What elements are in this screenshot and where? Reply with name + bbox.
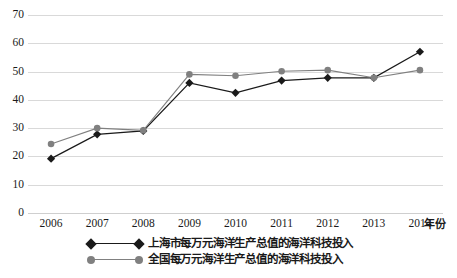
line-chart: 010203040506070 200620072008200920102011… xyxy=(0,0,457,278)
diamond-marker-icon xyxy=(324,74,332,82)
circle-marker-icon xyxy=(87,256,95,264)
series-layer xyxy=(28,15,443,213)
circle-marker-icon xyxy=(135,256,143,264)
y-axis-tick-label: 0 xyxy=(0,207,24,219)
series-line xyxy=(51,52,420,159)
x-axis-tick-label: 2009 xyxy=(178,218,201,230)
x-axis-tick-label: 2013 xyxy=(362,218,385,230)
legend-item-national[interactable]: 全国每万元海洋生产总值的海洋科技投入 xyxy=(86,252,386,268)
legend-item-shanghai[interactable]: 上海市每万元海洋生产总值的海洋科技投入 xyxy=(86,236,386,252)
x-axis-tick-label: 2006 xyxy=(40,218,63,230)
legend-label-shanghai: 上海市每万元海洋生产总值的海洋科技投入 xyxy=(144,238,353,250)
circle-marker-icon xyxy=(278,68,285,75)
x-axis-tick-label: 2010 xyxy=(224,218,247,230)
circle-marker-icon xyxy=(371,74,378,81)
circle-marker-icon xyxy=(94,125,101,132)
legend-key-shanghai xyxy=(86,237,144,251)
x-axis-tick-label: 2008 xyxy=(132,218,155,230)
gridline xyxy=(28,213,443,214)
legend-label-national: 全国每万元海洋生产总值的海洋科技投入 xyxy=(144,254,342,266)
plot-area xyxy=(28,15,443,213)
circle-marker-icon xyxy=(324,67,331,74)
series-line xyxy=(51,70,420,144)
x-axis-labels: 200620072008200920102011201220132014 xyxy=(28,218,443,234)
y-axis-tick-label: 30 xyxy=(0,122,24,134)
y-axis-tick-label: 20 xyxy=(0,151,24,163)
diamond-marker-icon xyxy=(416,48,424,56)
y-axis-tick-label: 40 xyxy=(0,94,24,106)
x-axis-tick-label: 2007 xyxy=(86,218,109,230)
legend-line-national xyxy=(90,259,140,260)
y-axis-tick-label: 60 xyxy=(0,38,24,50)
x-axis-title: 年份 xyxy=(424,219,446,230)
circle-marker-icon xyxy=(186,71,193,78)
diamond-marker-icon xyxy=(133,238,144,249)
diamond-marker-icon xyxy=(93,130,101,138)
diamond-marker-icon xyxy=(278,77,286,85)
legend-key-national xyxy=(86,253,144,267)
diamond-marker-icon xyxy=(47,155,55,163)
y-axis-tick-label: 70 xyxy=(0,9,24,21)
circle-marker-icon xyxy=(232,73,239,80)
x-axis-tick-label: 2012 xyxy=(316,218,339,230)
y-axis-tick-label: 10 xyxy=(0,179,24,191)
x-axis-tick-label: 2011 xyxy=(270,218,293,230)
y-axis-tick-label: 50 xyxy=(0,66,24,78)
circle-marker-icon xyxy=(417,67,424,74)
diamond-marker-icon xyxy=(231,89,239,97)
circle-marker-icon xyxy=(48,141,55,148)
diamond-marker-icon xyxy=(85,238,96,249)
y-axis-labels: 010203040506070 xyxy=(0,15,24,213)
circle-marker-icon xyxy=(140,127,147,134)
chart-legend: 上海市每万元海洋生产总值的海洋科技投入 全国每万元海洋生产总值的海洋科技投入 xyxy=(86,236,386,268)
